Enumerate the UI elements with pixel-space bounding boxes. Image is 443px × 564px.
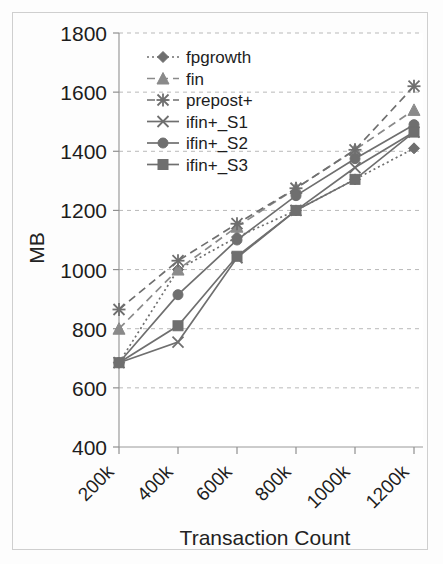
legend-label: fin (186, 70, 204, 89)
y-axis-tick-label: 400 (72, 436, 107, 459)
data-point-circle-marker (291, 191, 301, 201)
data-point-asterisk-marker (157, 94, 170, 107)
data-point-square-marker (114, 358, 124, 368)
data-point-square-marker (173, 321, 183, 331)
x-axis-title: Transaction Count (180, 526, 351, 549)
x-axis-tick-label: 600k (192, 461, 236, 505)
legend-label: ifin+_S2 (186, 134, 248, 153)
legend-label: ifin+_S1 (186, 113, 248, 132)
x-axis-tick-label: 800k (251, 461, 295, 505)
x-axis-tick-label: 1000k (302, 461, 354, 513)
data-point-asterisk-marker (172, 254, 185, 267)
data-point-square-marker (158, 160, 168, 170)
y-axis-tick-label: 1600 (60, 81, 107, 104)
y-axis-tick-label: 1200 (60, 199, 107, 222)
y-axis-tick-label: 1000 (60, 259, 107, 282)
data-point-asterisk-marker (113, 303, 126, 316)
x-axis-tick-label: 200k (74, 461, 118, 505)
data-point-square-marker (350, 174, 360, 184)
data-point-asterisk-marker (231, 217, 244, 230)
memory-usage-line-chart: 40060080010001200140016001800 200k400k60… (0, 0, 443, 564)
data-point-square-marker (232, 251, 242, 261)
data-point-circle-marker (232, 235, 242, 245)
legend-label: fpgrowth (186, 48, 251, 67)
y-axis-tick-label: 600 (72, 377, 107, 400)
legend-label: ifin+_S3 (186, 156, 248, 175)
plot-area-background (119, 33, 423, 447)
data-point-circle-marker (173, 290, 183, 300)
data-point-square-marker (409, 127, 419, 137)
data-point-square-marker (291, 205, 301, 215)
data-point-asterisk-marker (408, 80, 421, 93)
y-axis-title: MB (25, 232, 48, 264)
data-point-circle-marker (350, 154, 360, 164)
y-axis-tick-label: 1400 (60, 140, 107, 163)
chart-page: 40060080010001200140016001800 200k400k60… (0, 0, 443, 564)
x-axis-tick-label: 1200k (361, 461, 413, 513)
x-axis-tick-labels: 200k400k600k800k1000k1200k (74, 461, 413, 513)
legend-label: prepost+ (186, 91, 253, 110)
y-axis-tick-labels: 40060080010001200140016001800 (60, 22, 107, 459)
data-point-circle-marker (158, 138, 168, 148)
y-axis-tick-label: 1800 (60, 22, 107, 45)
y-axis-tick-label: 800 (72, 318, 107, 341)
x-axis-ticks-group (119, 447, 414, 454)
x-axis-tick-label: 400k (133, 461, 177, 505)
y-axis-ticks-group (113, 33, 119, 447)
